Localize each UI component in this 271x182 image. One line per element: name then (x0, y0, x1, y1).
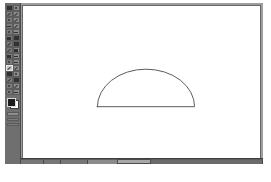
status-segment-unit[interactable] (44, 160, 61, 164)
pattern-indicator[interactable] (7, 118, 19, 121)
toolbox (5, 3, 21, 164)
canvas-area (21, 3, 263, 164)
screenshot-root (0, 0, 271, 182)
semicircle-shape (23, 6, 260, 160)
semicircle-path (97, 69, 194, 107)
editor-window (5, 3, 263, 164)
status-segment-position (21, 160, 44, 164)
dodge-burn-tool[interactable] (6, 89, 13, 95)
drawing-canvas[interactable] (22, 5, 261, 161)
tool-grid (6, 3, 20, 95)
gradient-indicator[interactable] (7, 123, 19, 126)
status-and-scrollbar[interactable] (21, 158, 263, 164)
horizontal-scroll-thumb[interactable] (117, 159, 151, 164)
status-segment-zoom[interactable] (61, 160, 88, 164)
brush-indicator[interactable] (7, 112, 19, 116)
foreground-background-colors[interactable] (7, 98, 19, 109)
path-extra-tool[interactable] (13, 89, 20, 95)
foreground-color-swatch[interactable] (7, 98, 16, 107)
